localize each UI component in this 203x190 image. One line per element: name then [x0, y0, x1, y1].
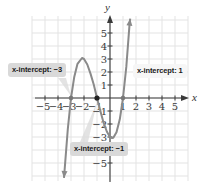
pointer-neg3 [58, 78, 71, 96]
y-tick-label: 5 [101, 28, 107, 39]
y-axis-label: y [104, 1, 110, 13]
y-tick-label: −3 [92, 132, 107, 143]
y-tick-label: 1 [101, 80, 107, 91]
y-tick-label: 2 [101, 67, 107, 78]
callout-x-intercept-neg3: x-intercept: −3 [8, 63, 66, 77]
cubic-function-graph: −5−4−3−2−112345−5−3−2−112345 y x [0, 0, 203, 190]
callout-x-intercept-neg1: x-intercept: −1 [70, 142, 128, 156]
x-tick-label: 5 [172, 101, 178, 112]
y-tick-label: −5 [92, 158, 107, 169]
x-tick-label: 4 [159, 101, 165, 112]
y-tick-label: 3 [101, 54, 107, 65]
x-axis-label: x [191, 91, 197, 103]
callout-x-intercept-1: x-intercept: 1 [133, 64, 187, 78]
intercept-point [69, 96, 74, 101]
x-tick-label: 2 [133, 101, 139, 112]
x-tick-label: 3 [146, 101, 152, 112]
intercept-point [94, 95, 99, 100]
y-tick-label: 4 [101, 41, 107, 52]
intercept-point [121, 96, 126, 101]
